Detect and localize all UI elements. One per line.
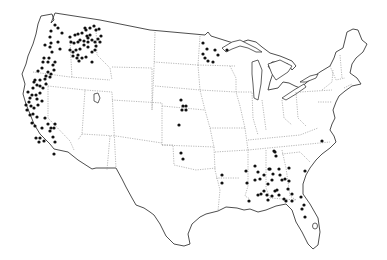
map-dot — [247, 199, 250, 202]
map-dot — [50, 50, 53, 53]
map-dot — [283, 177, 286, 180]
map-dot — [42, 139, 45, 142]
map-dot — [290, 192, 293, 195]
map-dot — [303, 215, 306, 218]
map-dot — [47, 56, 50, 59]
map-dot — [76, 32, 79, 35]
map-dot — [216, 53, 219, 56]
map-dot — [280, 178, 283, 181]
map-dot — [52, 126, 55, 129]
map-dot — [28, 96, 31, 99]
map-dot — [258, 177, 261, 180]
map-dot — [259, 192, 262, 195]
map-dot — [286, 187, 289, 190]
map-dot — [287, 179, 290, 182]
map-dot — [34, 136, 37, 139]
map-dot — [29, 104, 32, 107]
map-dot — [35, 83, 38, 86]
map-dot — [68, 48, 71, 51]
map-dot — [48, 129, 51, 132]
map-dot — [36, 69, 39, 72]
map-dot — [277, 167, 280, 170]
map-dot — [262, 173, 265, 176]
map-dot — [273, 150, 276, 153]
us-outline — [22, 13, 367, 249]
map-dot — [53, 60, 56, 63]
map-dot — [26, 90, 29, 93]
map-dot — [32, 80, 35, 83]
map-dot — [31, 86, 34, 89]
map-dot — [253, 164, 256, 167]
map-dot — [56, 26, 59, 29]
map-dot — [179, 98, 182, 101]
map-dot — [43, 43, 46, 46]
map-dot — [270, 178, 273, 181]
map-dot — [69, 40, 72, 43]
map-dot — [262, 189, 265, 192]
map-dot — [253, 178, 256, 181]
map-dot — [177, 123, 180, 126]
map-dot — [48, 45, 51, 48]
map-dot — [266, 182, 269, 185]
map-dot — [46, 70, 49, 73]
map-dot — [86, 45, 89, 48]
map-dot — [51, 135, 54, 138]
map-dot — [88, 26, 91, 29]
map-dot — [30, 93, 33, 96]
map-dot — [33, 124, 36, 127]
map-dot — [43, 116, 46, 119]
map-dot — [51, 63, 54, 66]
map-dot — [76, 53, 79, 56]
map-dot — [284, 199, 287, 202]
map-dot — [201, 52, 204, 55]
map-dot — [220, 173, 223, 176]
map-dot — [203, 56, 206, 59]
map-dot — [76, 40, 79, 43]
map-dot — [86, 36, 89, 39]
map-dot — [302, 203, 305, 206]
map-dot — [52, 68, 55, 71]
map-dot — [225, 48, 228, 51]
map-dot — [38, 84, 41, 87]
map-dot — [32, 106, 35, 109]
map-dot — [93, 48, 96, 51]
map-dot — [90, 60, 93, 63]
map-dot — [48, 75, 51, 78]
map-dot — [77, 59, 80, 62]
map-dot — [40, 99, 43, 102]
map-dot — [98, 40, 101, 43]
map-dot — [86, 40, 89, 43]
map-dot — [94, 44, 97, 47]
map-dot — [75, 56, 78, 59]
map-dot — [25, 108, 28, 111]
map-dot — [201, 41, 204, 44]
map-dot — [49, 41, 52, 44]
map-dot — [213, 48, 216, 51]
map-dot — [93, 40, 96, 43]
map-dot — [206, 59, 209, 62]
map-dot — [38, 136, 41, 139]
map-dot — [220, 181, 223, 184]
map-dot — [96, 37, 99, 40]
map-dot — [38, 91, 41, 94]
map-dot — [72, 41, 75, 44]
map-dot — [274, 154, 277, 157]
map-dot — [30, 121, 33, 124]
map-dot — [40, 66, 43, 69]
map-dot — [71, 54, 74, 57]
map-dot — [303, 169, 306, 172]
map-dot — [41, 86, 44, 89]
map-dot — [56, 40, 59, 43]
map-dot — [80, 31, 83, 34]
map-dot — [60, 31, 63, 34]
map-canvas — [0, 0, 387, 260]
us-dot-map — [0, 0, 387, 260]
map-dot — [42, 56, 45, 59]
map-dot — [49, 126, 52, 129]
map-dot — [90, 50, 93, 53]
map-dot — [90, 38, 93, 41]
map-dot — [179, 151, 182, 154]
map-dot — [27, 100, 30, 103]
map-dot — [46, 122, 49, 125]
map-dot — [44, 74, 47, 77]
